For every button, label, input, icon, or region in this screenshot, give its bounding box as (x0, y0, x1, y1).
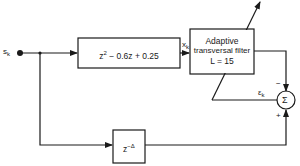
filter-line3: L = 15 (190, 56, 254, 66)
error-label: εk (258, 89, 265, 98)
diagram-canvas (0, 0, 300, 166)
delay-block: z−Δ (113, 141, 145, 154)
sum-symbol: Σ (282, 96, 288, 105)
filter-line1: Adaptive (190, 36, 254, 46)
input-node-dot (17, 50, 23, 56)
sum-minus-sign: − (276, 80, 281, 88)
input-label: sk (3, 48, 10, 57)
adaptive-filter-block: Adaptive transversal filter L = 15 (190, 36, 254, 66)
filter-line2: transversal filter (190, 46, 254, 56)
sum-plus-sign: + (276, 112, 281, 120)
xk-label: xk (182, 41, 189, 50)
branch-node-dot (38, 51, 41, 54)
channel-block: z2 − 0.6z + 0.25 (78, 48, 180, 61)
